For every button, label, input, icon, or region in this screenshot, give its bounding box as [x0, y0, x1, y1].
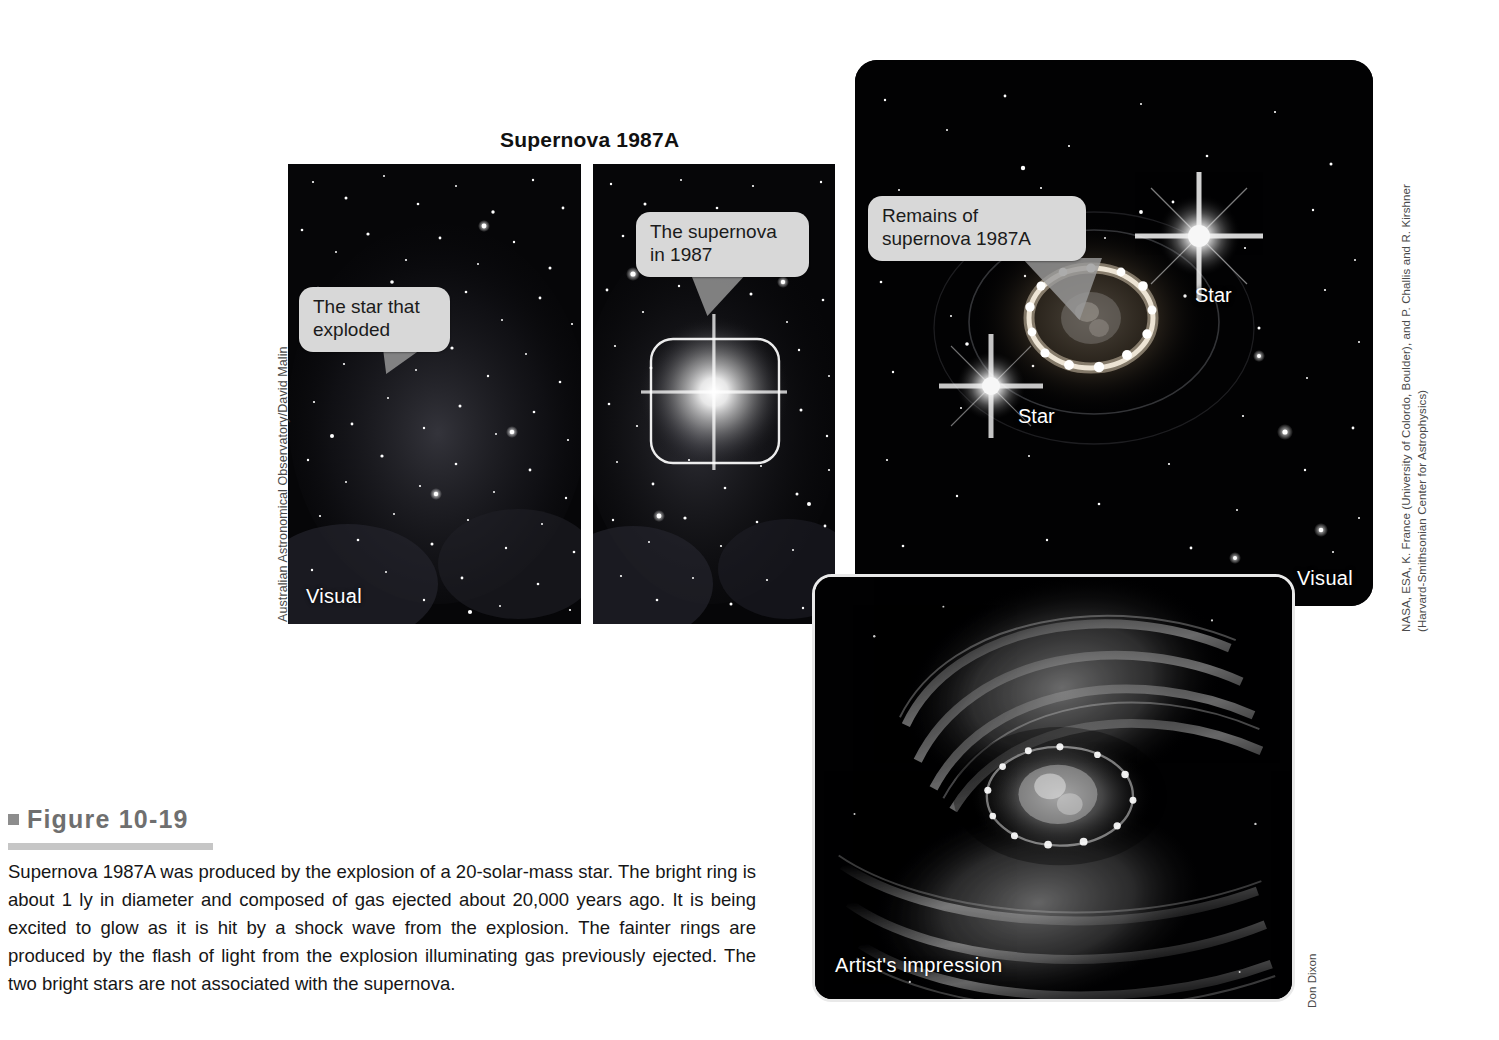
square-bullet-icon — [8, 814, 19, 825]
credit-left: Australian Astronomical Observatory/Davi… — [276, 346, 290, 622]
starfield-before — [288, 164, 581, 624]
figure-caption: Supernova 1987A was produced by the expl… — [8, 858, 756, 999]
credit-right-line1: NASA, ESA, K. France (University of Colo… — [1400, 184, 1412, 632]
artwork-hourglass-nebula — [815, 577, 1292, 1000]
panel-remnant-label: Visual — [1297, 567, 1353, 590]
panel-remnant: Star Star Visual — [855, 60, 1373, 606]
panel-before-label: Visual — [306, 585, 362, 608]
credit-right-line2: (Harvard-Smithsonian Center for Astrophy… — [1416, 390, 1428, 632]
credit-bottom-right: Don Dixon — [1306, 953, 1318, 1008]
panel-before-explosion: Visual — [288, 164, 581, 624]
figure-number: Figure 10-19 — [27, 805, 189, 834]
panel-artwork-label: Artist's impression — [835, 954, 1002, 977]
starfield-remnant — [855, 60, 1373, 606]
figure-rule — [8, 843, 213, 850]
panel-artist-impression: Artist's impression — [812, 574, 1295, 1002]
star-label-bottom: Star — [1018, 405, 1055, 428]
callout-remains-of-supernova: Remains of supernova 1987A — [868, 196, 1086, 261]
callout-the-supernova-in-1987: The supernova in 1987 — [636, 212, 809, 277]
star-label-top: Star — [1195, 284, 1232, 307]
callout-the-star-that-exploded: The star that exploded — [299, 287, 450, 352]
figure-title: Supernova 1987A — [500, 128, 679, 152]
figure-number-row: Figure 10-19 — [8, 805, 189, 834]
